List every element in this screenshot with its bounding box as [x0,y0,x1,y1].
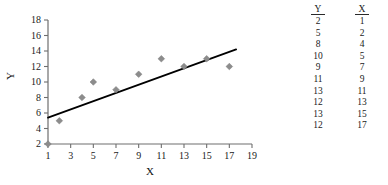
x-tick-label: 19 [247,150,257,161]
cell-x-value: 15 [340,109,384,121]
cell-x-value: 1 [340,16,384,28]
y-tick-label: 4 [36,123,41,134]
y-tick-label: 8 [36,92,41,103]
cell-y-value: 5 [296,28,340,40]
table-header-row: Y X [296,4,384,16]
y-tick-label: 14 [31,45,41,56]
table-row: 105 [296,51,384,63]
x-tick-label: 7 [114,150,119,161]
x-tick-label: 9 [136,150,141,161]
data-point [79,94,86,101]
cell-y-value: 2 [296,16,340,28]
y-tick-label: 6 [36,107,41,118]
table-row: 1217 [296,120,384,132]
scatter-chart: 24681012141618 135791113151719 [0,0,268,185]
x-tick-label: 15 [202,150,212,161]
y-axis-tick-labels: 24681012141618 [31,14,41,149]
cell-y-value: 12 [296,120,340,132]
column-header-x-label: X [355,4,370,15]
chart-panel: 24681012141618 135791113151719 Y X [0,0,268,185]
x-tick-label: 13 [179,150,189,161]
cell-x-value: 7 [340,62,384,74]
x-tick-label: 5 [91,150,96,161]
data-table-head: Y X [296,4,384,16]
table-row: 84 [296,39,384,51]
cell-x-value: 5 [340,51,384,63]
x-axis-ticks [48,144,252,148]
x-tick-label: 11 [157,150,167,161]
table-row: 1315 [296,109,384,121]
column-header-y-label: Y [311,4,326,15]
data-point [45,141,52,148]
data-point [135,71,142,78]
data-point [90,79,97,86]
y-tick-label: 18 [31,14,41,25]
cell-x-value: 11 [340,86,384,98]
y-axis-title: Y [4,72,16,80]
x-tick-label: 1 [46,150,51,161]
table-row: 1311 [296,86,384,98]
cell-y-value: 13 [296,86,340,98]
column-header-x: X [340,4,384,16]
x-tick-label: 17 [224,150,234,161]
cell-x-value: 17 [340,120,384,132]
axis-lines [48,20,252,144]
column-header-y: Y [296,4,340,16]
data-point-markers [45,55,233,147]
table-row: 1213 [296,97,384,109]
cell-y-value: 9 [296,62,340,74]
y-tick-label: 12 [31,61,41,72]
data-point [226,63,233,70]
scatter-plot-figure: 24681012141618 135791113151719 Y X Y X 2… [0,0,388,185]
table-row: 21 [296,16,384,28]
table-row: 119 [296,74,384,86]
cell-x-value: 4 [340,39,384,51]
y-tick-label: 10 [31,76,41,87]
cell-x-value: 9 [340,74,384,86]
y-tick-label: 2 [36,138,41,149]
data-point [56,117,63,124]
table-row: 97 [296,62,384,74]
cell-x-value: 13 [340,97,384,109]
cell-x-value: 2 [340,28,384,40]
cell-y-value: 13 [296,109,340,121]
data-table: Y X 215284105971191311121313151217 [296,4,384,132]
data-point [158,55,165,62]
cell-y-value: 12 [296,97,340,109]
x-axis-title: X [140,165,160,177]
data-table-body: 215284105971191311121313151217 [296,16,384,132]
cell-y-value: 11 [296,74,340,86]
table-row: 52 [296,28,384,40]
data-table-grid: Y X 215284105971191311121313151217 [296,4,384,132]
x-tick-label: 3 [68,150,73,161]
x-axis-tick-labels: 135791113151719 [46,150,258,161]
cell-y-value: 8 [296,39,340,51]
y-tick-label: 16 [31,30,41,41]
cell-y-value: 10 [296,51,340,63]
